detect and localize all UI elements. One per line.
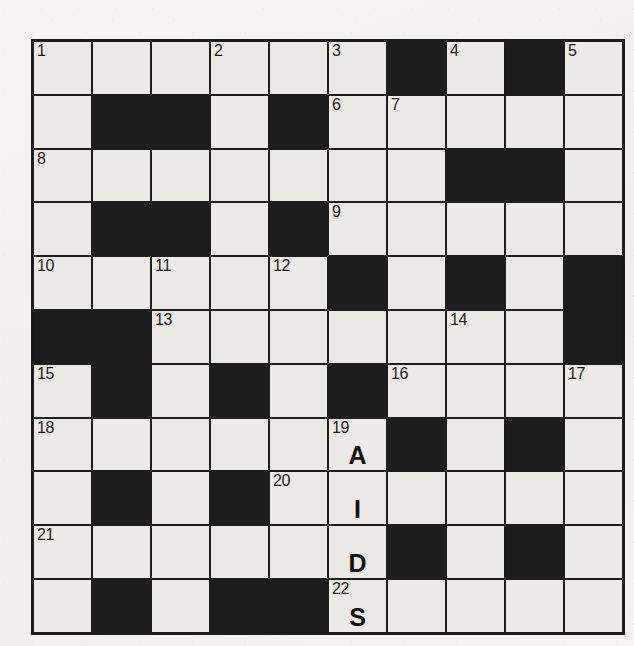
letter-cell[interactable]: 3 bbox=[328, 41, 387, 95]
block-cell bbox=[151, 95, 210, 149]
letter-cell[interactable] bbox=[151, 364, 210, 418]
letter-cell[interactable] bbox=[33, 202, 93, 256]
letter-cell[interactable] bbox=[269, 364, 328, 418]
letter-cell[interactable] bbox=[505, 95, 564, 149]
block-cell bbox=[446, 149, 505, 203]
clue-number: 3 bbox=[332, 42, 341, 60]
letter-cell[interactable]: 5 bbox=[564, 41, 624, 95]
letter-cell[interactable]: 21 bbox=[33, 525, 93, 579]
crossword-grid[interactable]: 12345678910111213141516171819A20I21D22S bbox=[31, 39, 601, 609]
letter-cell[interactable] bbox=[564, 471, 624, 525]
letter-cell[interactable] bbox=[446, 579, 505, 633]
letter-cell[interactable] bbox=[446, 525, 505, 579]
letter-cell[interactable] bbox=[92, 418, 151, 472]
letter-cell[interactable] bbox=[446, 471, 505, 525]
letter-cell[interactable]: 12 bbox=[269, 256, 328, 310]
letter-cell[interactable] bbox=[151, 525, 210, 579]
letter-cell[interactable] bbox=[446, 364, 505, 418]
crossword-row: 21D bbox=[33, 525, 624, 579]
letter-cell[interactable] bbox=[92, 525, 151, 579]
letter-cell[interactable] bbox=[210, 149, 269, 203]
letter-cell[interactable] bbox=[210, 95, 269, 149]
letter-cell[interactable] bbox=[564, 418, 624, 472]
letter-cell[interactable] bbox=[328, 310, 387, 364]
letter-cell[interactable]: 14 bbox=[446, 310, 505, 364]
letter-cell[interactable] bbox=[387, 310, 446, 364]
letter-cell[interactable] bbox=[387, 202, 446, 256]
letter-cell[interactable] bbox=[92, 256, 151, 310]
block-cell bbox=[92, 95, 151, 149]
letter-cell[interactable] bbox=[92, 149, 151, 203]
letter-cell[interactable] bbox=[505, 202, 564, 256]
clue-number: 17 bbox=[568, 365, 585, 383]
letter-cell[interactable] bbox=[269, 310, 328, 364]
letter-cell[interactable] bbox=[210, 310, 269, 364]
letter-cell[interactable] bbox=[269, 149, 328, 203]
letter-cell[interactable] bbox=[564, 95, 624, 149]
letter-cell[interactable] bbox=[387, 149, 446, 203]
letter-cell[interactable]: 6 bbox=[328, 95, 387, 149]
letter-cell[interactable]: 7 bbox=[387, 95, 446, 149]
letter-cell[interactable]: 16 bbox=[387, 364, 446, 418]
letter-cell[interactable] bbox=[505, 364, 564, 418]
block-cell bbox=[387, 418, 446, 472]
letter-cell[interactable] bbox=[210, 202, 269, 256]
letter-cell[interactable] bbox=[210, 256, 269, 310]
block-cell bbox=[446, 256, 505, 310]
letter-cell[interactable]: I bbox=[328, 471, 387, 525]
letter-cell[interactable] bbox=[33, 95, 93, 149]
letter-cell[interactable] bbox=[328, 149, 387, 203]
letter-cell[interactable] bbox=[446, 202, 505, 256]
clue-number: 4 bbox=[450, 42, 459, 60]
clue-number: 11 bbox=[155, 257, 171, 275]
letter-cell[interactable] bbox=[387, 256, 446, 310]
letter-cell[interactable] bbox=[446, 418, 505, 472]
letter-cell[interactable] bbox=[564, 579, 624, 633]
letter-cell[interactable] bbox=[151, 579, 210, 633]
letter-cell[interactable] bbox=[564, 149, 624, 203]
clue-number: 18 bbox=[37, 419, 54, 437]
letter-cell[interactable]: 20 bbox=[269, 471, 328, 525]
letter-cell[interactable] bbox=[151, 471, 210, 525]
letter-cell[interactable] bbox=[92, 41, 151, 95]
block-cell bbox=[92, 471, 151, 525]
letter-cell[interactable] bbox=[564, 525, 624, 579]
letter-cell[interactable] bbox=[33, 579, 93, 633]
letter-cell[interactable] bbox=[564, 202, 624, 256]
letter-cell[interactable]: 2 bbox=[210, 41, 269, 95]
letter-cell[interactable]: D bbox=[328, 525, 387, 579]
block-cell bbox=[505, 149, 564, 203]
letter-cell[interactable]: 15 bbox=[33, 364, 93, 418]
clue-number: 5 bbox=[568, 42, 577, 60]
letter-cell[interactable] bbox=[151, 418, 210, 472]
letter-cell[interactable] bbox=[505, 310, 564, 364]
letter-cell[interactable]: 1 bbox=[33, 41, 93, 95]
letter-cell[interactable] bbox=[505, 471, 564, 525]
letter-cell[interactable] bbox=[210, 418, 269, 472]
letter-cell[interactable] bbox=[387, 471, 446, 525]
letter-cell[interactable]: 19A bbox=[328, 418, 387, 472]
crossword-table[interactable]: 12345678910111213141516171819A20I21D22S bbox=[31, 39, 625, 635]
letter-cell[interactable] bbox=[387, 579, 446, 633]
letter-cell[interactable]: 11 bbox=[151, 256, 210, 310]
letter-cell[interactable] bbox=[151, 149, 210, 203]
letter-cell[interactable] bbox=[269, 418, 328, 472]
clue-number: 12 bbox=[273, 257, 290, 275]
letter-cell[interactable]: 9 bbox=[328, 202, 387, 256]
letter-cell[interactable] bbox=[269, 525, 328, 579]
letter-cell[interactable]: 18 bbox=[33, 418, 93, 472]
letter-cell[interactable] bbox=[210, 525, 269, 579]
letter-cell[interactable] bbox=[151, 41, 210, 95]
letter-cell[interactable]: 8 bbox=[33, 149, 93, 203]
letter-cell[interactable]: 4 bbox=[446, 41, 505, 95]
letter-cell[interactable]: 22S bbox=[328, 579, 387, 633]
letter-cell[interactable] bbox=[505, 256, 564, 310]
letter-cell[interactable] bbox=[269, 41, 328, 95]
block-cell bbox=[328, 364, 387, 418]
letter-cell[interactable] bbox=[446, 95, 505, 149]
letter-cell[interactable] bbox=[505, 579, 564, 633]
letter-cell[interactable]: 17 bbox=[564, 364, 624, 418]
letter-cell[interactable] bbox=[33, 471, 93, 525]
letter-cell[interactable]: 13 bbox=[151, 310, 210, 364]
letter-cell[interactable]: 10 bbox=[33, 256, 93, 310]
